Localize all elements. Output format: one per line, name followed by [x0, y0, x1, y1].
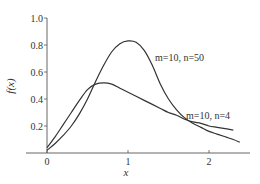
y-tick-label: 1.0 — [31, 13, 44, 24]
y-tick-label: 0.2 — [31, 121, 44, 132]
x-axis-label: x — [123, 166, 129, 178]
y-axis-label: f(x) — [4, 78, 17, 94]
x-tick-label: 0 — [45, 156, 50, 167]
series-group — [47, 41, 240, 150]
x-tick-label: 2 — [207, 156, 212, 167]
annotation-n4: m=10, n=4 — [186, 110, 230, 121]
series-n50-line — [47, 41, 240, 150]
y-tick-label: 0.4 — [31, 94, 44, 105]
annotation-n50: m=10, n=50 — [155, 52, 204, 63]
y-tick-label: 0.6 — [31, 67, 44, 78]
axes: 0120.20.40.60.81.0 — [26, 13, 250, 168]
y-tick-label: 0.8 — [31, 40, 44, 51]
chart: 0120.20.40.60.81.0 x f(x) m=10, n=50 m=1… — [0, 0, 260, 184]
